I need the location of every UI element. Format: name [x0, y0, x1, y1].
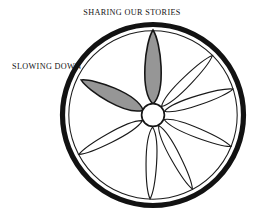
wheel-diagram: [0, 0, 264, 224]
wheel-hub-group: [142, 104, 165, 127]
label-sharing-our-stories: SHARING OUR STORIES: [83, 8, 180, 18]
spoke-petal: [77, 116, 145, 158]
spoke-highlight-sharing-our-stories: [145, 30, 161, 104]
spoke-petal-filled: [78, 73, 147, 117]
hub-circle: [142, 104, 165, 127]
diagram-canvas: SHARING OUR STORIES SLOWING DOWN: [0, 0, 264, 224]
spoke-bottom: [145, 127, 158, 199]
spoke-petal-filled: [145, 30, 161, 104]
spoke-petal: [145, 127, 158, 199]
spoke-lower-left: [77, 116, 145, 158]
spoke-highlight-slowing-down: [78, 73, 147, 117]
label-slowing-down: SLOWING DOWN: [12, 62, 81, 72]
